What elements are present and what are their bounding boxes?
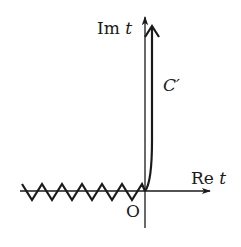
branch-cut-zigzag	[22, 184, 145, 200]
imaginary-axis-label-var: t	[125, 18, 132, 38]
real-axis-label-main: Re	[191, 168, 214, 188]
imaginary-axis-label-main: Im	[97, 18, 120, 38]
contour-label: C′	[163, 77, 180, 94]
real-axis-label-var: t	[219, 168, 226, 188]
contour-c-prime	[145, 27, 152, 191]
real-axis-label: Re t	[191, 170, 226, 187]
origin-label: O	[126, 203, 140, 220]
imaginary-axis-label: Im t	[97, 20, 132, 37]
